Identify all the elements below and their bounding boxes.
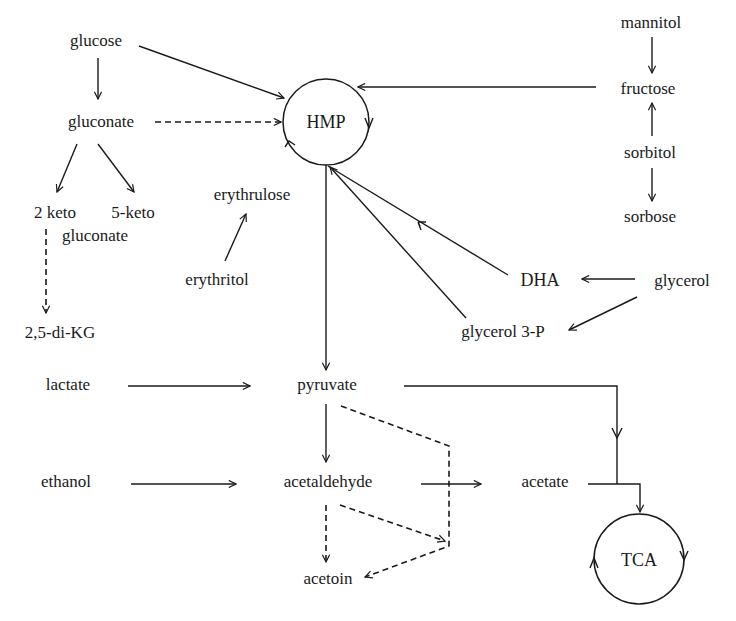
node-ethanol: ethanol	[41, 472, 91, 491]
arrow-glycerol3p-hmp	[330, 167, 466, 318]
node-keto-gluconate: gluconate	[62, 226, 128, 245]
node-sorbitol: sorbitol	[624, 143, 676, 162]
node-acetoin: acetoin	[303, 569, 353, 588]
node-pyruvate: pyruvate	[297, 375, 356, 394]
node-erythritol: erythritol	[185, 270, 249, 289]
node-acetaldehyde: acetaldehyde	[284, 472, 373, 491]
arrow-pyruvate-tca	[404, 386, 617, 484]
metabolic-pathway-diagram: HMP TCA glucose gluconate 2 keto 5-keto …	[0, 0, 736, 621]
arrow-gluconate-5keto	[98, 144, 134, 192]
node-dha: DHA	[521, 270, 560, 290]
arrow-glucose-hmp	[139, 46, 284, 98]
hmp-label: HMP	[306, 112, 345, 132]
node-5-keto: 5-keto	[111, 203, 154, 222]
node-glycerol-3-p: glycerol 3-P	[461, 322, 545, 341]
arrow-acetaldehyde-junction	[340, 505, 445, 541]
arrow-acetate-tca	[588, 484, 640, 512]
arrow-gluconate-2keto	[57, 144, 77, 192]
tca-cycle: TCA	[590, 514, 688, 604]
node-glycerol: glycerol	[654, 271, 710, 290]
node-gluconate: gluconate	[68, 112, 134, 131]
node-sorbose: sorbose	[624, 207, 676, 226]
tca-label: TCA	[621, 550, 657, 570]
node-acetate: acetate	[521, 472, 568, 491]
node-lactate: lactate	[46, 375, 90, 394]
node-glucose: glucose	[70, 31, 122, 50]
node-erythrulose: erythrulose	[214, 185, 290, 204]
node-mannitol: mannitol	[621, 13, 682, 32]
arrow-glycerol-glycerol3p	[569, 297, 637, 330]
arrow-dha-hmp	[328, 166, 508, 275]
node-2-keto: 2 keto	[34, 203, 76, 222]
node-2-5-di-kg: 2,5-di-KG	[25, 323, 95, 342]
hmp-cycle: HMP	[283, 79, 373, 165]
arrow-erythritol-erythrulose	[225, 214, 246, 261]
arrow-pyruvate-acetoin	[341, 406, 449, 577]
node-fructose: fructose	[621, 79, 676, 98]
